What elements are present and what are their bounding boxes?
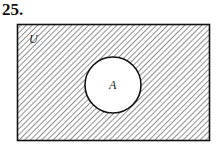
set-a-label: A xyxy=(108,78,117,92)
venn-diagram: U A xyxy=(0,0,218,151)
universe-label: U xyxy=(29,32,39,46)
